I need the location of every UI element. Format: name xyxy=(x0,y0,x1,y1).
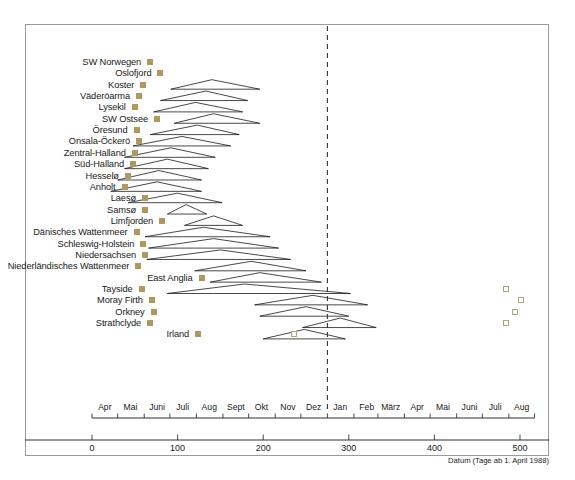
epidemic-curve-triangle xyxy=(150,125,239,135)
onset-marker xyxy=(132,150,138,156)
month-tick-label: Apr xyxy=(411,402,424,412)
secondary-marker xyxy=(518,297,524,303)
onset-marker xyxy=(130,161,136,167)
onset-marker xyxy=(199,275,205,281)
epidemic-curve-triangle xyxy=(154,102,243,112)
month-tick-label: Nov xyxy=(280,402,295,412)
onset-marker xyxy=(136,138,142,144)
onset-marker xyxy=(149,297,155,303)
row-label: Limfjorden xyxy=(0,216,153,226)
month-tick-label: Mai xyxy=(436,402,450,412)
row-label: SW Ostsee xyxy=(0,114,148,124)
onset-marker xyxy=(147,320,153,326)
onset-marker xyxy=(132,104,138,110)
row-label: Öresund xyxy=(0,125,128,135)
onset-marker xyxy=(135,263,141,269)
onset-marker xyxy=(140,82,146,88)
onset-marker xyxy=(136,93,142,99)
numeric-tick-label: 100 xyxy=(170,443,185,453)
onset-marker xyxy=(139,286,145,292)
chart-container: SW NorwegenOslofjordKosterVäderöarmaLyse… xyxy=(0,0,575,480)
row-label: Lysekil xyxy=(0,102,126,112)
row-label: Väderöarma xyxy=(0,91,130,101)
epidemic-curve-triangle xyxy=(263,329,345,339)
month-tick-label: Aug xyxy=(202,402,217,412)
epidemic-curve-triangle xyxy=(210,273,321,283)
onset-marker xyxy=(151,309,157,315)
epidemic-curve-triangle xyxy=(160,91,247,101)
row-label: Niederländisches Wattenmeer xyxy=(0,261,129,271)
epidemic-curve-triangle xyxy=(174,114,260,124)
row-label: Samsø xyxy=(0,205,136,215)
onset-marker xyxy=(142,252,148,258)
epidemic-curve-triangle xyxy=(171,80,260,90)
epidemic-curve-triangle xyxy=(125,159,209,169)
month-tick-label: Mai xyxy=(124,402,138,412)
row-label: SW Norwegen xyxy=(0,57,141,67)
month-tick-label: Sept xyxy=(227,402,245,412)
epidemic-curve-triangle xyxy=(184,216,242,226)
onset-marker xyxy=(195,331,201,337)
month-tick-label: Juni xyxy=(149,402,165,412)
onset-marker xyxy=(147,59,153,65)
epidemic-curve-triangle xyxy=(133,136,231,146)
secondary-marker xyxy=(291,331,297,337)
epidemic-curve-triangle xyxy=(125,148,216,158)
row-label: Niedersachsen xyxy=(0,250,136,260)
x-axis-caption: Datum (Tage ab 1. April 1988) xyxy=(0,456,549,465)
onset-marker xyxy=(142,207,148,213)
row-label: East Anglia xyxy=(0,273,193,283)
numeric-tick-label: 200 xyxy=(256,443,271,453)
row-label: Koster xyxy=(0,80,134,90)
month-tick-label: Juli xyxy=(489,402,502,412)
numeric-tick-label: 500 xyxy=(512,443,527,453)
epidemic-curve-triangle xyxy=(145,227,270,237)
epidemic-curve-triangle xyxy=(167,284,350,294)
onset-marker xyxy=(140,241,146,247)
row-label: Schleswig-Holstein xyxy=(0,239,134,249)
secondary-marker xyxy=(512,309,518,315)
epidemic-curve-triangle xyxy=(195,261,306,271)
epidemic-curve-triangle xyxy=(167,205,206,215)
onset-marker xyxy=(134,127,140,133)
onset-marker xyxy=(134,229,140,235)
onset-marker xyxy=(142,195,148,201)
row-label: Süd-Halland xyxy=(0,159,124,169)
epidemic-curve-triangle xyxy=(303,318,377,328)
row-label: Hesselø xyxy=(0,171,119,181)
month-tick-label: Okt xyxy=(255,402,268,412)
row-label: Laesø xyxy=(0,193,136,203)
row-label: Strathclyde xyxy=(0,318,141,328)
month-tick-label: Juli xyxy=(176,402,189,412)
numeric-tick-label: 0 xyxy=(89,443,94,453)
secondary-marker xyxy=(503,286,509,292)
row-label: Dänisches Wattenmeer xyxy=(0,227,128,237)
row-label: Tayside xyxy=(0,284,133,294)
numeric-tick-label: 400 xyxy=(427,443,442,453)
row-label: Orkney xyxy=(0,307,145,317)
row-label: Moray Firth xyxy=(0,295,143,305)
onset-marker xyxy=(125,173,131,179)
month-tick-label: März xyxy=(381,402,400,412)
row-label: Zentral-Halland xyxy=(0,148,126,158)
row-label: Irland xyxy=(0,329,189,339)
row-label: Oslofjord xyxy=(0,68,151,78)
secondary-marker xyxy=(503,320,509,326)
onset-marker xyxy=(157,70,163,76)
epidemic-curve-triangle xyxy=(260,307,349,317)
onset-marker xyxy=(154,116,160,122)
epidemic-curve-triangle xyxy=(147,250,291,260)
row-label: Onsala-Öckerö xyxy=(0,136,130,146)
numeric-tick-label: 300 xyxy=(341,443,356,453)
month-tick-label: Feb xyxy=(359,402,374,412)
month-tick-label: Apr xyxy=(98,402,111,412)
month-tick-label: Aug xyxy=(514,402,529,412)
month-tick-label: Jan xyxy=(333,402,347,412)
row-label: Anholt xyxy=(0,182,116,192)
month-tick-label: Dez xyxy=(306,402,321,412)
epidemic-curve-triangle xyxy=(148,239,278,249)
month-tick-label: Juni xyxy=(462,402,478,412)
onset-marker xyxy=(159,218,165,224)
onset-marker xyxy=(122,184,128,190)
epidemic-curve-triangle xyxy=(255,295,368,305)
